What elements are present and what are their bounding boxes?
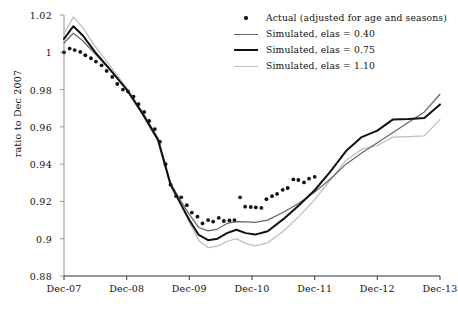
legend-item[interactable]: Simulated, elas = 0.75 — [233, 42, 447, 58]
data-point — [307, 177, 311, 181]
x-axis-tick-label: Dec-13 — [422, 283, 457, 294]
data-point — [153, 127, 157, 131]
data-point — [275, 192, 279, 196]
data-point — [169, 183, 173, 187]
data-point — [83, 53, 87, 57]
data-point — [73, 48, 77, 52]
data-point — [281, 188, 285, 192]
data-point — [217, 216, 221, 220]
legend-item[interactable]: Simulated, elas = 0.40 — [233, 26, 447, 42]
data-point — [132, 95, 136, 99]
data-point — [185, 203, 189, 207]
data-point — [238, 195, 242, 199]
x-axis-tick-label: Dec-08 — [109, 283, 144, 294]
data-point — [302, 181, 306, 185]
data-point — [68, 47, 72, 51]
data-point — [222, 219, 226, 223]
legend-line-icon — [234, 66, 258, 67]
legend-line-icon — [234, 49, 258, 51]
data-point — [260, 206, 264, 210]
data-point — [228, 219, 232, 223]
data-point — [313, 175, 317, 179]
data-point — [78, 50, 82, 54]
data-point — [62, 50, 66, 54]
data-point — [201, 222, 205, 226]
legend-marker-line — [233, 49, 259, 51]
legend-item[interactable]: Simulated, elas = 1.10 — [233, 58, 447, 74]
data-point — [158, 140, 162, 144]
data-point — [100, 63, 104, 67]
legend-dot-icon — [244, 16, 247, 19]
data-point — [94, 60, 98, 64]
data-point — [110, 75, 114, 79]
legend-marker-line — [233, 34, 259, 35]
data-point — [126, 90, 130, 94]
data-point — [142, 110, 146, 114]
data-point — [296, 178, 300, 182]
data-point — [206, 218, 210, 222]
data-point — [105, 69, 109, 73]
data-point — [164, 162, 168, 166]
legend-item-label: Simulated, elas = 0.75 — [266, 45, 375, 54]
legend-marker-line — [233, 66, 259, 67]
x-axis-tick-label: Dec-12 — [360, 283, 395, 294]
data-point — [233, 218, 237, 222]
data-point — [179, 195, 183, 199]
data-point — [174, 194, 178, 198]
legend-line-icon — [234, 34, 258, 35]
data-point — [137, 102, 141, 106]
x-axis-tick-label: Dec-07 — [46, 283, 81, 294]
x-axis-tick-label: Dec-09 — [172, 283, 207, 294]
data-point — [243, 205, 247, 209]
data-point — [249, 205, 253, 209]
chart-legend: Actual (adjusted for age and seasons)Sim… — [233, 10, 447, 74]
data-point — [270, 194, 274, 198]
data-point — [89, 56, 93, 60]
data-point — [211, 220, 215, 224]
x-axis-tick-label: Dec-11 — [297, 283, 332, 294]
data-point — [190, 211, 194, 215]
legend-item-label: Simulated, elas = 1.10 — [266, 61, 375, 70]
data-point — [196, 215, 200, 219]
data-point — [265, 197, 269, 201]
data-point — [291, 178, 295, 182]
x-axis-tick-label: Dec-10 — [234, 283, 269, 294]
data-point — [121, 88, 125, 92]
legend-item-label: Simulated, elas = 0.40 — [266, 29, 375, 38]
legend-item[interactable]: Actual (adjusted for age and seasons) — [233, 10, 447, 26]
data-point — [254, 205, 258, 209]
legend-marker-dot — [233, 16, 259, 19]
legend-item-label: Actual (adjusted for age and seasons) — [266, 13, 447, 22]
data-point — [115, 82, 119, 86]
data-point — [286, 186, 290, 190]
data-point — [147, 119, 151, 123]
